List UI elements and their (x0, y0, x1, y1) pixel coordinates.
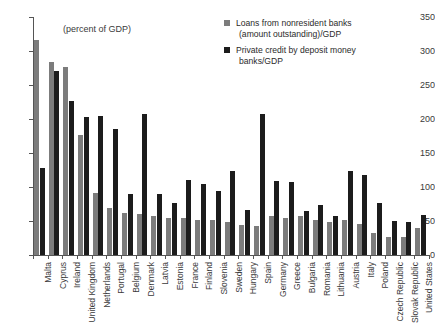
x-axis-category-label: Sweden (235, 262, 244, 293)
bar (298, 216, 303, 255)
bar (34, 40, 39, 255)
bar (245, 210, 250, 255)
bar (357, 224, 362, 255)
bar (166, 218, 171, 255)
bar (283, 218, 288, 255)
bar-group (194, 17, 209, 255)
legend-label-private-credit-line2: banks/GDP (236, 56, 429, 67)
x-axis-tick-mark (106, 255, 107, 259)
bar (289, 182, 294, 255)
bar (195, 220, 200, 255)
bar (386, 237, 391, 255)
bar (49, 62, 54, 255)
bar-chart: 050100150200250300350 (percent of GDP) M… (0, 0, 435, 333)
x-axis-tick-mark (282, 255, 283, 259)
bar (128, 194, 133, 255)
bar-group (33, 17, 48, 255)
x-axis-category-label: Austria (352, 262, 361, 288)
x-axis-tick-mark (33, 255, 34, 259)
legend-label-loans-line2: (amount outstanding)/GDP (236, 29, 429, 40)
bar (274, 181, 279, 255)
bar (84, 117, 89, 255)
bar (137, 214, 142, 255)
bar (225, 222, 230, 255)
bar (377, 203, 382, 255)
x-axis-tick-mark (297, 255, 298, 259)
legend-label-private-credit-line1: Private credit by deposit money (236, 45, 356, 55)
bar (63, 67, 68, 255)
x-axis-tick-mark (312, 255, 313, 259)
bar (371, 233, 376, 255)
x-axis-tick-mark (429, 255, 430, 259)
x-axis-category-label: Cyprus (59, 262, 68, 289)
x-axis-category-label: Ireland (73, 262, 82, 288)
bar (40, 168, 45, 255)
x-axis-category-label: United States (425, 262, 434, 313)
bar (269, 216, 274, 255)
bar (392, 221, 397, 255)
x-axis-category-label: Romania (323, 262, 332, 296)
x-axis-tick-mark (62, 255, 63, 259)
x-axis-category-label: Estonia (176, 262, 185, 290)
bar (186, 180, 191, 255)
x-axis-category-label: Belgium (132, 262, 141, 293)
bar-group (77, 17, 92, 255)
bar (172, 203, 177, 255)
legend-entry-private-credit: Private credit by deposit money banks/GD… (224, 45, 429, 66)
x-axis-category-label: Malta (44, 262, 53, 283)
x-axis-category-label: United Kingdom (88, 262, 97, 322)
x-axis-category-label: Greece (293, 262, 302, 290)
legend-swatch-loans (224, 20, 230, 26)
x-axis-tick-mark (400, 255, 401, 259)
bar (98, 116, 103, 255)
x-axis-category-label: Czech Republic (396, 262, 405, 322)
bar (421, 215, 426, 255)
bar (181, 218, 186, 255)
bar (362, 175, 367, 255)
bar (401, 237, 406, 255)
bar (342, 220, 347, 255)
x-axis-tick-mark (224, 255, 225, 259)
x-axis-tick-mark (194, 255, 195, 259)
x-axis-category-label: Germany (279, 262, 288, 297)
x-axis-tick-mark (268, 255, 269, 259)
x-axis-category-label: Finland (205, 262, 214, 290)
x-axis-tick-mark (77, 255, 78, 259)
x-axis-category-label: Slovenia (220, 262, 229, 295)
bar (107, 208, 112, 255)
bar (313, 220, 318, 255)
x-axis-category-label: Denmark (147, 262, 156, 296)
x-axis-tick-mark (92, 255, 93, 259)
bar (216, 191, 221, 255)
bar (260, 114, 265, 255)
bar-group (62, 17, 77, 255)
bar-group (180, 17, 195, 255)
bar (142, 114, 147, 255)
bar-group (92, 17, 107, 255)
bar (69, 101, 74, 255)
x-axis-category-label: Netherlands (103, 262, 112, 308)
x-axis-tick-mark (180, 255, 181, 259)
x-axis-tick-mark (150, 255, 151, 259)
x-axis-category-label: Lithuania (337, 262, 346, 297)
x-axis-tick-mark (48, 255, 49, 259)
x-axis-tick-mark (356, 255, 357, 259)
legend-swatch-private-credit (224, 47, 230, 53)
bar (210, 220, 215, 255)
x-axis-tick-mark (136, 255, 137, 259)
x-axis-category-label: Slovak Republic (411, 262, 420, 323)
bar (348, 171, 353, 255)
bar (113, 129, 118, 255)
bar (93, 193, 98, 255)
bar (230, 171, 235, 255)
x-axis-tick-mark (209, 255, 210, 259)
bar (318, 205, 323, 255)
x-axis-category-label: Spain (264, 262, 273, 284)
x-axis-tick-mark (370, 255, 371, 259)
bar (78, 135, 83, 255)
bar (406, 222, 411, 255)
bar (151, 216, 156, 255)
bar (327, 222, 332, 255)
bar-group (48, 17, 63, 255)
bar (122, 213, 127, 255)
